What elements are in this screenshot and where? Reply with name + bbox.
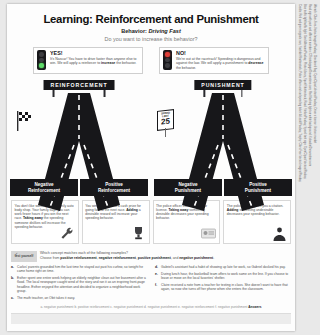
behavior-subtitle: Behavior: Driving Fast <box>7 28 295 34</box>
test-yourself-prompt: Which concept matches each of the follow… <box>40 251 291 255</box>
checkered-flag-icon <box>15 110 37 132</box>
choices-pre: Choose from <box>40 256 60 260</box>
qtitle-3b: Punishment <box>155 188 221 193</box>
forked-road-right <box>168 93 278 215</box>
test-yourself-badge: ✓ test yourself <box>11 251 37 262</box>
list-item: a. Carlos' parents grounded him the last… <box>11 265 147 274</box>
test-yourself-section: ✓ test yourself Which concept matches ea… <box>7 248 295 309</box>
reinforcement-quadrant-labels: Negative Reinforcement Positive Reinforc… <box>7 179 151 196</box>
item-a-label: a. <box>11 265 15 274</box>
forked-road-left <box>24 93 134 215</box>
callout-yes-head: YES! <box>50 50 139 56</box>
callout-no-head: NO! <box>176 50 265 56</box>
items-column-right: d. Gabriel's assistant had a habit of sh… <box>155 265 291 302</box>
behavior-label: Behavior: <box>121 28 147 34</box>
punishment-banner: PUNISHMENT <box>194 80 251 90</box>
behavior-question: Do you want to increase this behavior? <box>7 36 295 42</box>
speed-limit-value: 25 <box>158 117 173 127</box>
qtitle-2b: Reinforcement <box>81 188 147 193</box>
callout-row: YES! It's Nascar! You have to drive fast… <box>7 47 295 74</box>
choice-1: negative reinforcement <box>99 256 136 260</box>
quadrant-negative-reinforcement: Negative Reinforcement <box>10 179 78 196</box>
item-b-text: Esther spent one entire week helping an … <box>17 276 147 293</box>
footer-bar <box>11 313 291 324</box>
qtitle-4b: Punishment <box>225 188 291 193</box>
items-column-left: a. Carlos' parents grounded him the last… <box>11 265 147 302</box>
item-d-label: d. <box>155 265 159 269</box>
credit-line-1: Credits: Red and green signals: iam, Sas… <box>297 4 301 304</box>
qtitle-1b: Reinforcement <box>11 188 77 193</box>
callout-yes-body: It's Nascar! You have to drive faster th… <box>50 57 139 66</box>
choice-3: negative punishment <box>179 256 213 260</box>
list-item: b. Esther spent one entire week helping … <box>11 276 147 293</box>
police-officer-icon <box>271 226 288 241</box>
answer-key: a. negative punishment b. positive reinf… <box>11 305 291 309</box>
callout-no-bold: decrease <box>248 61 263 65</box>
wrench-icon <box>59 226 76 241</box>
item-d-text: Gabriel's assistant had a habit of showi… <box>161 265 286 269</box>
list-item: d. Gabriel's assistant had a habit of sh… <box>155 265 291 269</box>
drivers-license-icon <box>200 226 217 241</box>
speed-limit-sign: SPEED LIMIT 25 <box>157 110 174 136</box>
quadrant-negative-punishment: Negative Punishment <box>154 179 222 196</box>
answer-key-text: a. negative punishment b. positive reinf… <box>40 305 247 309</box>
quadrant-positive-reinforcement: Positive Reinforcement <box>80 179 148 196</box>
callout-yes-bold: increase <box>101 61 115 65</box>
callout-no: NO! We're out at the racetrack! Speeding… <box>159 47 269 74</box>
traffic-light-green-icon <box>36 50 47 71</box>
list-item: f. Claire received a note from a teacher… <box>155 283 291 292</box>
trophy-icon <box>130 226 147 241</box>
credit-line-2: Blue traffic light/traffic light: Gerd A… <box>302 4 306 304</box>
traffic-light-red-icon <box>162 50 173 71</box>
photo-credits-rail: Credits: Red and green signals: iam, Sas… <box>297 4 319 304</box>
item-c-label: c. <box>11 296 15 300</box>
behavior-value: Driving Fast <box>149 28 181 34</box>
item-e-text: During lunch hour, the basketball team o… <box>161 272 291 281</box>
test-yourself-items: a. Carlos' parents grounded him the last… <box>11 265 291 302</box>
check-mark-icon: ✓ <box>14 252 18 256</box>
callout-yes-post: the behavior. <box>115 61 136 65</box>
list-item: e. During lunch hour, the basketball tea… <box>155 272 291 281</box>
quadrant-positive-punishment: Positive Punishment <box>224 179 292 196</box>
callout-no-post: the behavior. <box>176 66 196 70</box>
callout-no-body: We're out at the racetrack! Speeding is … <box>176 57 265 70</box>
reinforcement-banner: REINFORCEMENT <box>44 80 115 90</box>
test-yourself-choices: Choose from positive reinforcement, nega… <box>40 256 291 260</box>
poster-page: Learning: Reinforcement and Punishment B… <box>7 4 295 331</box>
credit-line-4: Wrench: Clker-Free-Vector-Images/Pixabay… <box>312 4 316 304</box>
list-item: c. The math teacher, an Obit takes it ea… <box>11 296 147 300</box>
item-b-label: b. <box>11 276 15 293</box>
choice-2: positive punishment <box>138 256 171 260</box>
credit-line-3: Road sign with post and different number… <box>307 4 311 304</box>
answer-key-label: Answers <box>248 305 261 309</box>
item-e-label: e. <box>155 272 159 281</box>
choice-0: positive reinforcement <box>60 256 96 260</box>
page-title: Learning: Reinforcement and Punishment <box>7 13 295 25</box>
punishment-quadrant-labels: Negative Punishment Positive Punishment <box>151 179 295 196</box>
item-c-text: The math teacher, an Obit takes it easy. <box>17 296 75 300</box>
punishment-half: PUNISHMENT SPEED LIMIT 25 Negative <box>151 76 295 226</box>
fork-road-diagram: REINFORCEMENT Negative <box>7 76 295 226</box>
item-a-text: Carlos' parents grounded him the last ti… <box>17 265 147 274</box>
item-f-text: Claire received a note from a teacher fo… <box>161 283 291 292</box>
reinforcement-half: REINFORCEMENT Negative <box>7 76 151 226</box>
callout-yes: YES! It's Nascar! You have to drive fast… <box>33 47 143 74</box>
item-f-label: f. <box>155 283 159 292</box>
